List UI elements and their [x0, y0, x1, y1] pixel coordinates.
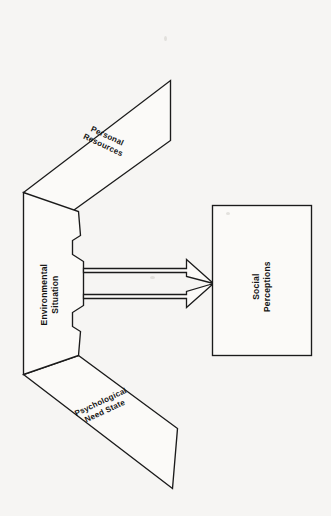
- personal-resources-shape[interactable]: [24, 81, 171, 213]
- psychological-need-state-shape[interactable]: [24, 356, 178, 489]
- environmental-situation-shape[interactable]: [24, 193, 84, 375]
- social-perceptions-shape[interactable]: [213, 206, 312, 356]
- arrow-upper: [84, 260, 214, 284]
- arrow-lower: [84, 284, 214, 308]
- diagram-canvas: Personal Resources Environmental Situati…: [0, 0, 331, 516]
- diagram-vector-layer: [0, 0, 331, 516]
